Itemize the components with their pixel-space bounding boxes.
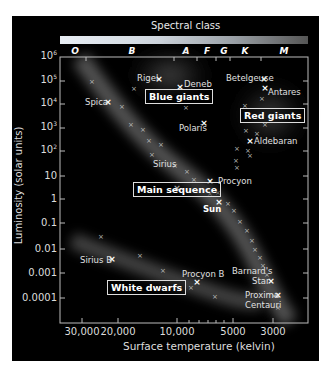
region-white-dwarfs: White dwarfs: [107, 280, 186, 295]
star-label-rigel: Rigel: [137, 74, 158, 83]
svg-text:×: ×: [246, 136, 254, 146]
svg-text:×: ×: [249, 237, 255, 245]
xtick-5000: 5000: [220, 326, 245, 337]
xtick-10000: 10,000: [160, 326, 195, 337]
svg-text:×: ×: [158, 141, 164, 149]
region-main-sequence: Main sequence: [133, 182, 221, 197]
svg-text:×: ×: [243, 127, 249, 135]
region-red-giants: Red giants: [240, 108, 305, 123]
svg-text:×: ×: [184, 168, 190, 176]
svg-text:×: ×: [257, 254, 263, 262]
svg-text:×: ×: [247, 152, 253, 160]
svg-text:×: ×: [146, 137, 152, 145]
star-label-proxima-1: Proxima: [245, 291, 279, 300]
star-label-proxima-2: Centauri: [245, 301, 281, 310]
star-label-sun: Sun: [203, 205, 221, 214]
star-label-barnards-2: Star: [252, 277, 269, 286]
svg-text:×: ×: [252, 246, 258, 254]
star-label-barnards-1: Barnard's: [232, 267, 273, 276]
xtick-20000: 20,000: [101, 326, 136, 337]
ytick-1e5: 105: [13, 73, 57, 85]
svg-text:×: ×: [131, 85, 137, 93]
y-axis-label: Luminosity (solar units): [13, 126, 24, 246]
ytick-1e4: 104: [13, 96, 57, 108]
star-label-antares: Antares: [268, 88, 301, 97]
svg-text:×: ×: [231, 207, 237, 215]
svg-text:×: ×: [259, 95, 265, 103]
star-label-sirius: Sirius: [153, 160, 176, 169]
svg-text:×: ×: [119, 103, 125, 111]
svg-text:×: ×: [225, 200, 231, 208]
svg-text:×: ×: [137, 252, 143, 260]
star-label-aldebaran: Aldebaran: [254, 137, 298, 146]
svg-text:×: ×: [234, 145, 240, 153]
svg-text:×: ×: [140, 126, 146, 134]
svg-text:×: ×: [89, 78, 95, 86]
svg-text:×: ×: [128, 121, 134, 129]
region-blue-giants: Blue giants: [145, 89, 213, 104]
star-label-procyon: Procyon: [218, 177, 252, 186]
svg-text:×: ×: [237, 218, 243, 226]
svg-text:×: ×: [183, 104, 189, 112]
xtick-3000: 3000: [260, 326, 285, 337]
ytick-1e6: 106: [13, 49, 57, 61]
star-label-procyon-b: Procyon B: [182, 270, 224, 279]
xtick-30000: 30,000: [65, 326, 100, 337]
ytick-0-001: 0.001: [13, 267, 57, 278]
svg-text:×: ×: [149, 151, 155, 159]
star-label-deneb: Deneb: [184, 80, 212, 89]
svg-text:×: ×: [244, 227, 250, 235]
svg-text:×: ×: [234, 164, 240, 172]
svg-text:×: ×: [212, 293, 218, 301]
star-label-betelgeuse: Betelgeuse: [226, 74, 274, 83]
svg-text:×: ×: [98, 233, 104, 241]
star-label-sirius-b: Sirius B: [80, 256, 112, 265]
x-axis-label: Surface temperature (kelvin): [123, 340, 275, 352]
svg-text:×: ×: [160, 267, 166, 275]
star-label-spica: Spica: [85, 98, 108, 107]
ytick-0-0001: 0.0001: [13, 292, 57, 303]
star-label-polaris: Polaris: [179, 124, 207, 133]
